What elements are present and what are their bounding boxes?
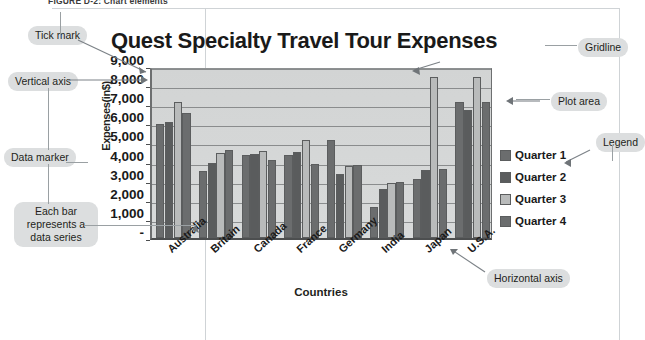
callout-arrows [0,0,639,340]
